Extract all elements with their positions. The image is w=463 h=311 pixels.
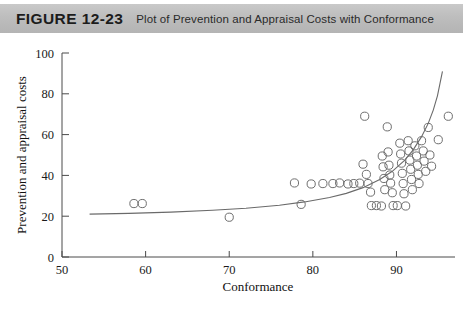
x-axis-title: Conformance bbox=[223, 279, 294, 294]
data-point bbox=[319, 179, 327, 187]
axes-group bbox=[62, 53, 455, 257]
y-tick-label-100: 100 bbox=[35, 47, 54, 61]
data-point bbox=[307, 180, 315, 188]
data-point bbox=[359, 160, 367, 168]
data-point bbox=[399, 179, 407, 187]
x-tick-label-50: 50 bbox=[56, 263, 69, 277]
data-point bbox=[379, 163, 387, 171]
data-point bbox=[400, 190, 408, 198]
x-tick-label-70: 70 bbox=[223, 263, 236, 277]
data-point bbox=[366, 188, 374, 196]
data-point bbox=[225, 213, 233, 221]
x-tick-label-60: 60 bbox=[139, 263, 152, 277]
data-point bbox=[377, 202, 385, 210]
data-point bbox=[444, 112, 452, 120]
scatter-plot-svg: 020406080100 5060708090 Prevention and a… bbox=[0, 33, 463, 299]
x-tick-label-90: 90 bbox=[390, 263, 403, 277]
figure-number-label: FIGURE 12-23 bbox=[16, 10, 123, 28]
page-text-sliver bbox=[0, 303, 463, 311]
data-point bbox=[378, 152, 386, 160]
plot-area: 020406080100 5060708090 Prevention and a… bbox=[0, 33, 463, 299]
data-point bbox=[387, 179, 395, 187]
data-point bbox=[290, 179, 298, 187]
data-point bbox=[434, 136, 442, 144]
data-point bbox=[414, 170, 422, 178]
data-point bbox=[138, 199, 146, 207]
data-point bbox=[415, 179, 423, 187]
data-point bbox=[297, 200, 305, 208]
y-tick-label-40: 40 bbox=[42, 169, 55, 183]
y-tick-label-60: 60 bbox=[42, 128, 55, 142]
figure-caption: Plot of Prevention and Appraisal Costs w… bbox=[136, 13, 434, 25]
data-point bbox=[384, 148, 392, 156]
figure-header-band: FIGURE 12-23 Plot of Prevention and Appr… bbox=[0, 4, 463, 33]
data-point bbox=[398, 169, 406, 177]
y-tick-label-20: 20 bbox=[42, 210, 55, 224]
data-point bbox=[361, 112, 369, 120]
data-point bbox=[383, 123, 391, 131]
data-point bbox=[402, 202, 410, 210]
data-point bbox=[388, 189, 396, 197]
data-point bbox=[385, 161, 393, 169]
fit-curve bbox=[90, 71, 443, 214]
y-tick-label-80: 80 bbox=[42, 87, 55, 101]
data-points-layer bbox=[130, 112, 453, 221]
data-point bbox=[130, 199, 138, 207]
data-point bbox=[381, 186, 389, 194]
figure-container: FIGURE 12-23 Plot of Prevention and Appr… bbox=[0, 0, 463, 311]
x-tick-label-80: 80 bbox=[307, 263, 320, 277]
data-point bbox=[362, 170, 370, 178]
data-point bbox=[356, 179, 364, 187]
fit-curve-layer bbox=[90, 71, 443, 214]
data-point bbox=[427, 162, 435, 170]
x-axis-ticks: 5060708090 bbox=[56, 251, 403, 277]
y-axis-ticks: 020406080100 bbox=[35, 47, 69, 265]
data-point bbox=[367, 201, 375, 209]
data-point bbox=[408, 186, 416, 194]
data-point bbox=[397, 150, 405, 158]
y-axis-title: Prevention and appraisal costs bbox=[14, 76, 29, 234]
data-point bbox=[426, 151, 434, 159]
data-point bbox=[396, 139, 404, 147]
y-tick-label-0: 0 bbox=[48, 251, 54, 265]
